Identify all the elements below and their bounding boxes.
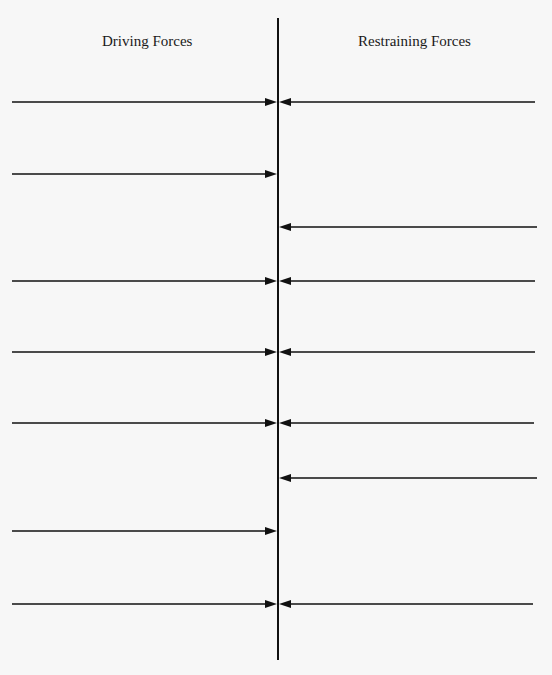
restraining-arrowhead-icon [279,98,291,106]
driving-arrowhead-icon [265,98,277,106]
restraining-arrowhead-icon [279,277,291,285]
driving-arrowhead-icon [265,527,277,535]
restraining-arrowhead-icon [279,348,291,356]
restraining-arrowhead-icon [279,419,291,427]
force-field-diagram: Driving Forces Restraining Forces [0,0,552,675]
driving-arrowhead-icon [265,277,277,285]
force-arrows [0,0,552,675]
restraining-arrowhead-icon [279,223,291,231]
driving-arrowhead-icon [265,419,277,427]
driving-arrowhead-icon [265,348,277,356]
restraining-arrowhead-icon [279,600,291,608]
restraining-arrowhead-icon [279,474,291,482]
driving-arrowhead-icon [265,170,277,178]
driving-arrowhead-icon [265,600,277,608]
